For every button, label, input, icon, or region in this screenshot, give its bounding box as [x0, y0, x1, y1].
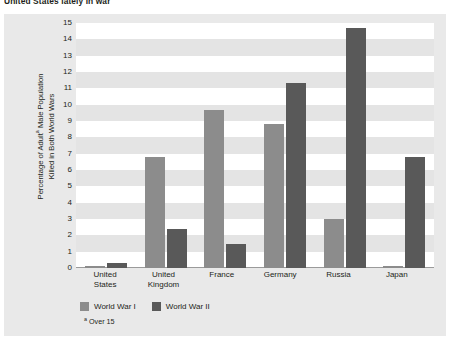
y-axis-tick-label: 5 — [50, 182, 72, 190]
y-axis-tick-label: 3 — [50, 215, 72, 223]
bar — [107, 263, 127, 268]
y-axis-tick-label: 9 — [50, 117, 72, 125]
y-axis-tick-label: 13 — [50, 52, 72, 60]
category-label-line: Japan — [368, 270, 426, 280]
legend-label: World War I — [94, 302, 136, 311]
footnote-text: Over 15 — [89, 317, 115, 326]
category-label-line: Kingdom — [134, 280, 192, 290]
bar-groups — [76, 23, 434, 268]
legend-label: World War II — [166, 302, 210, 311]
bar-group — [374, 23, 434, 268]
y-axis-tick-label: 11 — [50, 84, 72, 92]
bar — [383, 266, 403, 268]
x-axis-category-label: Russia — [309, 270, 367, 296]
x-axis-category-label: France — [193, 270, 251, 296]
bar — [324, 219, 344, 268]
bar-group — [195, 23, 255, 268]
bar — [145, 157, 165, 268]
category-label-line: States — [76, 280, 134, 290]
bar — [346, 28, 366, 268]
y-axis-tick-label: 14 — [50, 35, 72, 43]
y-axis-tick-label: 6 — [50, 166, 72, 174]
y-axis-tick-label: 15 — [50, 19, 72, 27]
x-axis-category-labels: UnitedStatesUnitedKingdomFranceGermanyRu… — [76, 270, 426, 296]
y-axis-tick-label: 1 — [50, 248, 72, 256]
x-axis-category-label: UnitedStates — [76, 270, 134, 296]
plot-area — [76, 23, 434, 268]
footnote-marker: a — [84, 316, 87, 322]
y-axis-tick-label: 0 — [50, 264, 72, 272]
category-label-line: United — [76, 270, 134, 280]
plot-area-wrapper: 1514131211109876543210 — [50, 23, 434, 268]
bar-group — [255, 23, 315, 268]
bar — [167, 229, 187, 268]
bar — [264, 124, 284, 268]
y-axis-tick-label: 4 — [50, 199, 72, 207]
y-axis-title-footnote-marker: a — [34, 130, 40, 133]
chart-legend: World War IWorld War II — [80, 302, 210, 311]
chart-footnote: a Over 15 — [84, 317, 115, 326]
legend-swatch — [80, 302, 89, 311]
bar — [286, 83, 306, 268]
x-axis-category-label: Germany — [251, 270, 309, 296]
y-axis-tick-label: 8 — [50, 133, 72, 141]
y-axis-tick-label: 10 — [50, 101, 72, 109]
y-axis-tick-labels: 1514131211109876543210 — [50, 23, 72, 268]
bar — [204, 110, 224, 268]
y-axis-title-part1: Percentage of Adult — [36, 133, 45, 199]
bar-group — [136, 23, 196, 268]
legend-item[interactable]: World War II — [152, 302, 210, 311]
bar — [226, 244, 246, 269]
y-axis-tick-label: 2 — [50, 231, 72, 239]
y-axis-tick-label: 7 — [50, 150, 72, 158]
bar-group — [315, 23, 375, 268]
bar-group — [76, 23, 136, 268]
x-axis-category-label: UnitedKingdom — [134, 270, 192, 296]
bar — [85, 266, 105, 268]
legend-item[interactable]: World War I — [80, 302, 136, 311]
category-label-line: France — [193, 270, 251, 280]
bar — [405, 157, 425, 268]
chart-page: United States lately in war Percentage o… — [0, 0, 450, 340]
category-label-line: Russia — [309, 270, 367, 280]
legend-swatch — [152, 302, 161, 311]
figure-panel: Percentage of Adulta Male Population Kil… — [4, 14, 446, 336]
y-axis-title-part2: Male Population — [36, 74, 45, 131]
page-heading: United States lately in war — [4, 0, 304, 8]
category-label-line: United — [134, 270, 192, 280]
y-axis-tick-label: 12 — [50, 68, 72, 76]
x-axis-category-label: Japan — [368, 270, 426, 296]
category-label-line: Germany — [251, 270, 309, 280]
